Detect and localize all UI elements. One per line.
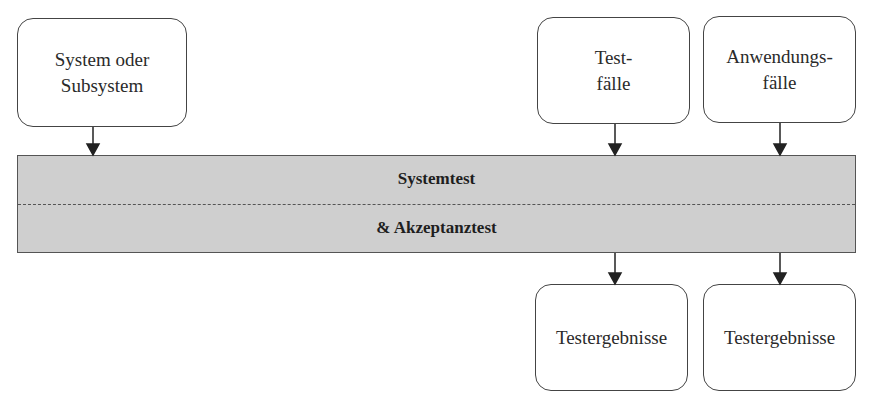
arrow-down-icon — [774, 123, 786, 155]
arrow-down-icon — [774, 253, 786, 284]
arrow-down-icon — [87, 127, 99, 155]
arrow-connectors — [0, 0, 871, 406]
arrow-down-icon — [609, 253, 621, 284]
arrow-down-icon — [609, 124, 621, 155]
